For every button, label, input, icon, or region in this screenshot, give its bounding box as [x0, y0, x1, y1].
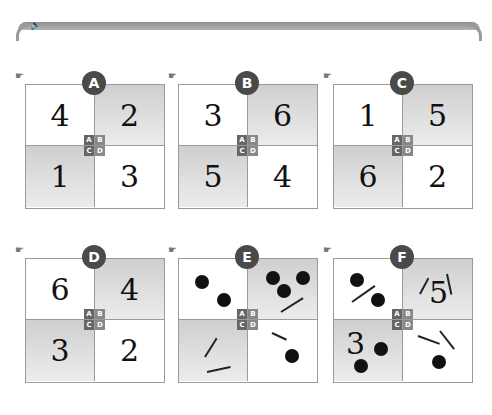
key-d: D: [403, 320, 413, 330]
panel-label-badge: B: [235, 71, 259, 95]
panel-label-badge: D: [82, 245, 106, 269]
stick: [280, 297, 303, 312]
cell-number: 6: [358, 159, 377, 194]
key-b: B: [95, 135, 105, 145]
cell-b[interactable]: 6: [248, 85, 317, 146]
key-c: C: [237, 320, 247, 330]
key-b: B: [403, 135, 413, 145]
speaker-icon[interactable]: 🔈: [30, 20, 41, 30]
pointing-hand-icon: ☛: [323, 70, 332, 81]
quadrant-key: A B C D: [237, 309, 257, 329]
dot: [374, 342, 388, 356]
pointing-hand-icon: ☛: [323, 244, 332, 255]
cell-b[interactable]: 4: [95, 259, 164, 320]
cell-number: 6: [273, 98, 292, 133]
stick: [272, 332, 287, 341]
key-d: D: [95, 320, 105, 330]
key-c: C: [392, 146, 402, 156]
cell-number: 2: [428, 159, 447, 194]
key-a: A: [84, 135, 94, 145]
key-c: C: [392, 320, 402, 330]
key-d: D: [248, 146, 258, 156]
dot: [217, 293, 231, 307]
panel-c: 1 5 6 2 A B C D C ☛: [333, 84, 473, 209]
key-a: A: [237, 135, 247, 145]
stick: [207, 366, 231, 373]
cell-number: 3: [346, 326, 365, 361]
dot: [195, 275, 209, 289]
cell-number: 5: [203, 159, 222, 194]
cell-number: 3: [50, 333, 69, 368]
pointing-hand-icon: ☛: [168, 70, 177, 81]
cell-number: 4: [273, 159, 292, 194]
key-a: A: [392, 309, 402, 319]
key-a: A: [84, 309, 94, 319]
cell-number: 2: [120, 98, 139, 133]
panel-f: 5 3 A B C D F ☛: [333, 258, 473, 383]
cell-number: 4: [50, 98, 69, 133]
cell-d[interactable]: [403, 320, 472, 381]
pointing-hand-icon: ☛: [15, 244, 24, 255]
key-a: A: [237, 309, 247, 319]
cell-d[interactable]: [248, 320, 317, 381]
cell-number: 5: [428, 98, 447, 133]
cell-b[interactable]: 2: [95, 85, 164, 146]
cell-number: 3: [120, 159, 139, 194]
dot: [371, 293, 385, 307]
key-c: C: [84, 146, 94, 156]
cell-number: 2: [120, 333, 139, 368]
panel-label-badge: F: [390, 245, 414, 269]
quadrant-key: A B C D: [84, 135, 104, 155]
dot: [296, 271, 310, 285]
dot: [432, 355, 446, 369]
dot: [354, 359, 368, 373]
cell-b[interactable]: 5: [403, 85, 472, 146]
key-d: D: [248, 320, 258, 330]
cell-number: 6: [50, 272, 69, 307]
cell-b[interactable]: 5: [403, 259, 472, 320]
panel-label-badge: E: [235, 245, 259, 269]
key-d: D: [403, 146, 413, 156]
panel-b: 3 6 5 4 A B C D B ☛: [178, 84, 318, 209]
cell-number: 1: [358, 98, 377, 133]
cell-b[interactable]: [248, 259, 317, 320]
header-bar-right-curve: [469, 24, 482, 41]
cell-d[interactable]: 2: [403, 146, 472, 207]
cell-number: 1: [50, 159, 69, 194]
key-b: B: [95, 309, 105, 319]
quadrant-key: A B C D: [237, 135, 257, 155]
key-d: D: [95, 146, 105, 156]
key-b: B: [248, 309, 258, 319]
dot: [266, 271, 280, 285]
header-bar: [18, 22, 480, 30]
key-c: C: [84, 320, 94, 330]
quadrant-key: A B C D: [392, 135, 412, 155]
panel-e: A B C D E ☛: [178, 258, 318, 383]
cell-d[interactable]: 2: [95, 320, 164, 381]
stick: [439, 330, 455, 349]
quadrant-key: A B C D: [392, 309, 412, 329]
panel-label-badge: C: [390, 71, 414, 95]
cell-number: 3: [203, 98, 222, 133]
cell-d[interactable]: 4: [248, 146, 317, 207]
dot: [350, 273, 364, 287]
cell-number: 4: [120, 272, 139, 307]
key-a: A: [392, 135, 402, 145]
dot: [285, 349, 299, 363]
key-c: C: [237, 146, 247, 156]
pointing-hand-icon: ☛: [15, 70, 24, 81]
key-b: B: [248, 135, 258, 145]
header-bar-left-curve: [16, 24, 29, 41]
stick: [419, 278, 429, 295]
panel-label-badge: A: [82, 71, 106, 95]
pointing-hand-icon: ☛: [168, 244, 177, 255]
cell-number: 5: [429, 275, 448, 310]
dot: [277, 284, 291, 298]
cell-d[interactable]: 3: [95, 146, 164, 207]
panel-a: 4 2 1 3 A B C D A ☛: [25, 84, 165, 209]
stick: [204, 338, 217, 358]
stick: [418, 335, 440, 345]
panel-d: 6 4 3 2 A B C D D ☛: [25, 258, 165, 383]
key-b: B: [403, 309, 413, 319]
quadrant-key: A B C D: [84, 309, 104, 329]
